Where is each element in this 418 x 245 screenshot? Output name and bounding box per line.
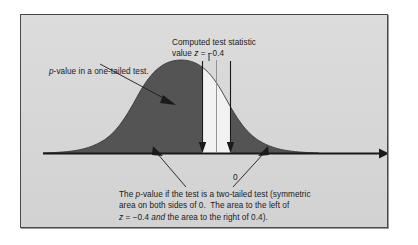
axis-zero-label: 0 xyxy=(233,172,238,183)
caption-line3-mid: = −0.4 xyxy=(123,213,151,222)
figure-panel: Computed test statistic value z = −0.4 p… xyxy=(20,14,388,228)
caption-line2: area on both sides of 0. The area to the… xyxy=(119,201,289,210)
two-tailed-pvalue-caption: The p-value if the test is a two-tailed … xyxy=(119,189,311,223)
caption-line1-rest: -value if the test is a two-tailed test … xyxy=(140,190,310,199)
one-tailed-pvalue-label: p-value in a one-tailed test. xyxy=(49,66,149,77)
top-label-line1: Computed test statistic xyxy=(172,38,256,47)
computed-test-statistic-label: Computed test statistic value z = −0.4 xyxy=(172,37,256,60)
top-label-line2-suffix: = −0.4 xyxy=(198,49,224,58)
figure-page: Computed test statistic value z = −0.4 p… xyxy=(0,0,418,245)
caption-line1-prefix: The xyxy=(119,190,136,199)
caption-line3-and: and xyxy=(151,213,165,222)
left-label-rest: -value in a one-tailed test. xyxy=(54,67,149,76)
x-axis-arrowhead-icon xyxy=(379,149,387,159)
caption-line3-end: the area to the right of 0.4). xyxy=(165,213,268,222)
caption-left-leader-line xyxy=(156,152,186,187)
top-label-line2-prefix: value xyxy=(172,49,194,58)
